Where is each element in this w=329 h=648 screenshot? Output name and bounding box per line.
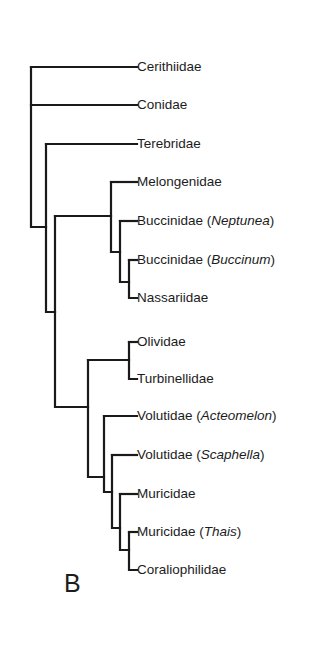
- genus-name: Buccinum: [211, 252, 270, 267]
- tree-branch: [129, 260, 137, 298]
- taxon-label-muricidae: Muricidae: [137, 486, 196, 502]
- taxon-label-buccinidae-neptunea: Buccinidae (Neptunea): [137, 213, 274, 229]
- tree-branch: [88, 360, 104, 477]
- tree-branch: [112, 455, 120, 528]
- taxon-label-melongenidae: Melongenidae: [137, 174, 222, 190]
- taxon-label-terebridae: Terebridae: [137, 136, 201, 152]
- genus-name: Thais: [204, 524, 237, 539]
- taxon-label-volutidae-acteomelon: Volutidae (Acteomelon): [137, 408, 277, 424]
- family-name: Muricidae: [137, 486, 196, 501]
- family-name: Melongenidae: [137, 174, 222, 189]
- family-name: Nassariidae: [137, 290, 208, 305]
- taxon-label-conidae: Conidae: [137, 97, 187, 113]
- taxon-label-volutidae-scaphella: Volutidae (Scaphella): [137, 447, 265, 463]
- family-name: Cerithiidae: [137, 59, 202, 74]
- tree-branch: [31, 67, 46, 227]
- tree-branch: [55, 216, 88, 407]
- family-name: Turbinellidae: [137, 371, 214, 386]
- family-name: Volutidae: [137, 408, 193, 423]
- tree-branch: [111, 182, 120, 252]
- taxon-label-turbinellidae: Turbinellidae: [137, 371, 214, 387]
- genus-name: Neptunea: [211, 213, 270, 228]
- taxon-label-cerithiidae: Cerithiidae: [137, 59, 202, 75]
- genus-name: Scaphella: [201, 447, 260, 462]
- family-name: Conidae: [137, 97, 187, 112]
- family-name: Buccinidae: [137, 213, 203, 228]
- taxon-label-coraliophilidae: Coraliophilidae: [137, 562, 226, 578]
- panel-label: B: [64, 569, 81, 597]
- taxon-label-olividae: Olividae: [137, 334, 186, 350]
- family-name: Volutidae: [137, 447, 193, 462]
- family-name: Olividae: [137, 334, 186, 349]
- taxon-label-muricidae-thais: Muricidae (Thais): [137, 524, 241, 540]
- taxon-label-buccinidae-buccinum: Buccinidae (Buccinum): [137, 252, 275, 268]
- tree-branch: [120, 221, 129, 282]
- family-name: Muricidae: [137, 524, 196, 539]
- tree-branch: [104, 416, 112, 492]
- tree-branch: [129, 532, 137, 570]
- family-name: Coraliophilidae: [137, 562, 226, 577]
- genus-name: Acteomelon: [201, 408, 272, 423]
- tree-branch: [129, 342, 137, 379]
- tree-branch: [120, 494, 129, 550]
- family-name: Buccinidae: [137, 252, 203, 267]
- family-name: Terebridae: [137, 136, 201, 151]
- tree-branch: [46, 144, 55, 312]
- taxon-label-nassariidae: Nassariidae: [137, 290, 208, 306]
